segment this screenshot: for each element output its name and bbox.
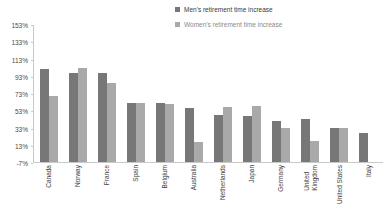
x-axis-label: Japan [248,165,256,183]
plot-area: 153%133%113%93%73%53%33%13%-7% [33,25,383,163]
x-label-cell: United Kingdom [296,165,325,217]
x-axis-label: United States [336,165,344,204]
y-tick-label: 133% [0,39,28,46]
bar-mens[interactable] [359,133,368,162]
bar-mens[interactable] [127,103,136,163]
x-axis-label: Canada [45,165,53,188]
x-axis-label: Netherlands [219,165,227,200]
y-tick-label: 93% [0,73,28,80]
bar-mens[interactable] [69,73,78,162]
bar-womens[interactable] [49,96,58,162]
bar-groups [34,25,383,162]
bar-group [179,25,208,162]
bar-womens[interactable] [136,103,145,163]
bar-womens[interactable] [107,83,116,162]
x-axis-label: Australia [190,165,198,190]
bar-womens[interactable] [252,106,261,162]
bar-mens[interactable] [243,116,252,162]
bar-group [63,25,92,162]
y-tick-label: 73% [0,91,28,98]
y-tick-mark [31,94,33,95]
y-tick-label: -7% [0,160,28,167]
bar-mens[interactable] [301,119,310,162]
x-axis-label: Belgium [161,165,169,188]
x-axis-baseline [33,162,383,163]
legend-swatch-mens [175,7,180,12]
y-tick-mark [31,77,33,78]
bar-group [34,25,63,162]
bar-chart: Men's retirement time increase Women's r… [0,0,389,218]
y-tick-mark [31,146,33,147]
x-label-cell: Australia [179,165,208,217]
y-tick-label: 113% [0,56,28,63]
x-axis-label: United Kingdom [303,165,318,191]
bar-group [121,25,150,162]
y-tick-label: 153% [0,22,28,29]
bar-group [325,25,354,162]
bar-mens[interactable] [156,103,165,162]
x-label-cell: Canada [34,165,63,217]
y-tick-label: 53% [0,108,28,115]
bar-group [296,25,325,162]
bar-group [208,25,237,162]
x-label-cell: Germany [267,165,296,217]
x-label-cell: Spain [121,165,150,217]
x-axis-label: France [103,165,111,185]
bar-womens[interactable] [194,142,203,162]
bar-mens[interactable] [214,115,223,162]
bar-mens[interactable] [185,108,194,162]
y-tick-mark [31,42,33,43]
y-tick-mark [31,25,33,26]
bar-group [238,25,267,162]
bar-mens[interactable] [330,128,339,163]
x-axis-labels: CanadaNorwayFranceSpainBelgiumAustraliaN… [34,165,383,217]
bar-womens[interactable] [78,68,87,162]
bar-womens[interactable] [223,107,232,162]
x-axis-label: Norway [74,165,82,187]
bar-mens[interactable] [272,121,281,162]
bar-group [267,25,296,162]
bar-group [92,25,121,162]
bar-group [354,25,383,162]
legend-item-mens[interactable]: Men's retirement time increase [175,6,282,13]
y-tick-mark [31,163,33,164]
x-axis-label: Italy [365,165,373,177]
y-tick-label: 13% [0,142,28,149]
x-label-cell: United States [325,165,354,217]
x-label-cell: Norway [63,165,92,217]
x-label-cell: Netherlands [208,165,237,217]
x-label-cell: Japan [238,165,267,217]
y-tick-mark [31,129,33,130]
bar-womens[interactable] [339,128,348,163]
legend-label-mens: Men's retirement time increase [184,6,273,13]
bar-mens[interactable] [40,69,49,162]
x-label-cell: Italy [354,165,383,217]
y-tick-mark [31,60,33,61]
y-tick-label: 33% [0,125,28,132]
bar-womens[interactable] [165,104,174,162]
x-axis-label: Spain [132,165,140,182]
x-label-cell: France [92,165,121,217]
y-tick-mark [31,111,33,112]
x-axis-label: Germany [277,165,285,192]
bar-mens[interactable] [98,73,107,162]
bar-womens[interactable] [281,128,290,163]
x-label-cell: Belgium [150,165,179,217]
bar-group [150,25,179,162]
bar-womens[interactable] [310,141,319,162]
